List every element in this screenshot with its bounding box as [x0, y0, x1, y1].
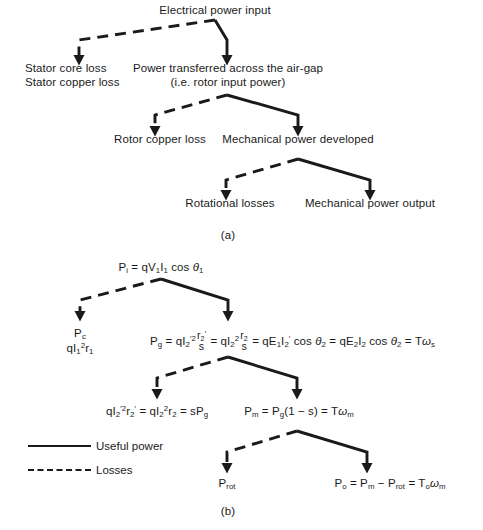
equation-rotor-copper-loss: qI2′2r2′ = qI22r2 = sPg — [106, 405, 208, 418]
branch-b3-useful — [297, 431, 373, 474]
node-stator-copper-loss: Stator copper loss — [25, 76, 120, 89]
caption-panel-a: (a) — [221, 229, 235, 242]
equation-mechanical-power-output: Po = Pm − Prot = Toωm — [334, 477, 445, 490]
node-rotor-copper-loss: Rotor copper loss — [114, 133, 206, 146]
node-airgap-power-line2: (i.e. rotor input power) — [171, 76, 286, 89]
node-electrical-power-input: Electrical power input — [159, 4, 271, 17]
branch-b1-loss — [75, 279, 162, 322]
equation-rotational-losses: Prot — [218, 477, 235, 490]
branch-b2-loss — [152, 357, 229, 400]
equation-stator-loss-symbol: Pc — [74, 327, 86, 340]
legend-label-losses: Losses — [96, 464, 132, 476]
branch-a1-useful — [215, 20, 233, 66]
equation-stator-loss-expression: qI12r1 — [66, 342, 93, 355]
equation-airgap-power: Pg = qI2′2r2′s = qI22r2s = qE1I2′ cos θ2… — [150, 330, 435, 352]
branch-b3-loss — [222, 431, 298, 474]
equation-input-power: Pi = qV1I1 cos θ1 — [118, 261, 203, 274]
branch-a2-loss — [150, 95, 228, 137]
power-flow-figure: Electrical power input Stator core loss … — [0, 0, 483, 530]
node-stator-core-loss: Stator core loss — [25, 62, 107, 75]
legend-item-useful-power: Useful power — [28, 440, 163, 452]
legend-solid-line-icon — [28, 445, 91, 447]
branch-a3-loss — [221, 159, 299, 201]
node-airgap-power-line1: Power transferred across the air-gap — [133, 62, 323, 75]
node-mechanical-power-output: Mechanical power output — [305, 197, 435, 210]
branch-a2-useful — [227, 95, 304, 137]
branch-b2-useful — [228, 357, 303, 400]
branch-a3-useful — [298, 159, 376, 201]
branch-b1-useful — [161, 279, 234, 322]
caption-panel-b: (b) — [221, 505, 235, 518]
node-rotational-losses: Rotational losses — [185, 197, 274, 210]
equation-mechanical-power-developed: Pm = Pg(1 − s) = Tωm — [244, 405, 354, 418]
node-mechanical-power-developed: Mechanical power developed — [222, 133, 374, 146]
legend-label-useful-power: Useful power — [96, 440, 163, 452]
legend-dashed-line-icon — [28, 469, 91, 471]
legend-item-losses: Losses — [28, 464, 132, 476]
branch-a1-loss — [74, 20, 216, 66]
